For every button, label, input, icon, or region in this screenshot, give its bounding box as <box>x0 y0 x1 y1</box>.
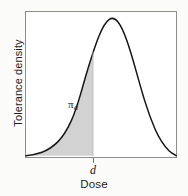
pi-symbol: π <box>68 98 74 110</box>
shaded-area-label: πd <box>68 99 78 112</box>
tolerance-density-curve <box>26 18 176 155</box>
tolerance-density-figure: Tolerance density πd d Dose <box>0 0 188 196</box>
y-axis-title: Tolerance density <box>12 18 24 148</box>
pi-subscript-d: d <box>74 103 78 112</box>
x-axis-tick-label-d: d <box>81 163 105 178</box>
density-curve-plot <box>25 11 177 158</box>
x-axis-title: Dose <box>44 178 144 190</box>
